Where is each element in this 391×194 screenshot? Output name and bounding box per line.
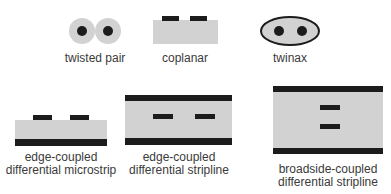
edge-stripline-label-line2: differential stripline	[120, 164, 238, 177]
edge-coupled-microstrip-figure	[15, 115, 107, 146]
microstrip-label-line2: differential microstrip	[0, 164, 122, 177]
twinax-figure	[261, 17, 319, 45]
microstrip-label: edge-coupled differential microstrip	[0, 151, 122, 177]
broadside-stripline-label-line2: differential stripline	[268, 176, 388, 189]
twinax-label: twinax	[255, 52, 325, 65]
twisted-pair-label: twisted pair	[60, 52, 130, 65]
broadside-coupled-stripline-figure	[273, 86, 383, 154]
edge-stripline-label: edge-coupled differential stripline	[120, 151, 238, 177]
coplanar-figure	[153, 16, 218, 44]
twisted-pair-figure	[69, 18, 121, 44]
broadside-stripline-label: broadside-coupled differential stripline	[268, 163, 388, 189]
coplanar-label: coplanar	[150, 52, 220, 65]
edge-coupled-stripline-figure	[125, 95, 232, 145]
